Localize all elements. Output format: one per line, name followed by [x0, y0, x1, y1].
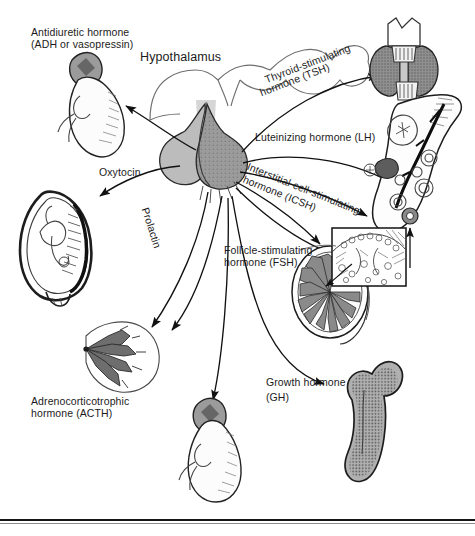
label-acth-line1: Adrenocorticotrophic [31, 395, 129, 408]
label-growth-hormone-line2: (GH) [266, 391, 289, 404]
arrow-adh-to-adrenal [126, 106, 196, 150]
label-fsh-line1: Follicle-stimulating [224, 244, 312, 257]
kidney-adrenal-gland-bottom [179, 398, 241, 502]
label-antidiuretic-hormone-line2: (ADH or vasopressin) [31, 38, 133, 51]
bottom-divider-secondary [0, 523, 475, 524]
label-acth-line2: hormone (ACTH) [31, 407, 112, 420]
label-antidiuretic-hormone-line1: Antidiuretic hormone [31, 26, 129, 39]
pituitary-gland [160, 104, 248, 203]
mammary-gland [83, 322, 159, 392]
arrow-unlabeled-to-breast [152, 192, 208, 327]
hormone-diagram-figure: Antidiuretic hormone (ADH or vasopressin… [0, 0, 475, 536]
pregnant-uterus-with-fetus [20, 192, 91, 306]
arrow-prolactin-to-breast [172, 196, 222, 330]
label-oxytocin: Oxytocin [99, 166, 141, 179]
label-luteinizing-hormone: Luteinizing hormone (LH) [255, 131, 375, 144]
label-fsh-line2: hormone (FSH) [224, 256, 298, 269]
label-hypothalamus: Hypothalamus [140, 50, 221, 64]
thyroid-gland-with-larynx [370, 18, 438, 100]
label-growth-hormone-line1: Growth hormone [266, 376, 346, 389]
kidney-adrenal-gland-top-left [58, 53, 124, 157]
bottom-divider [0, 519, 475, 521]
femur-bone [345, 362, 402, 482]
